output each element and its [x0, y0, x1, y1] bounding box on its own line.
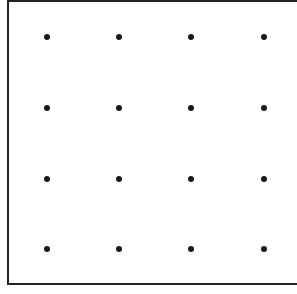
grid-dot — [116, 176, 122, 182]
grid-dot — [116, 105, 122, 111]
grid-dot — [116, 34, 122, 40]
grid-dot — [261, 105, 267, 111]
grid-dot — [44, 105, 50, 111]
grid-dot — [188, 105, 194, 111]
grid-dot — [261, 34, 267, 40]
grid-dot — [44, 246, 50, 252]
grid-dot — [44, 176, 50, 182]
grid-dot — [188, 246, 194, 252]
grid-dot — [188, 34, 194, 40]
grid-dot — [261, 246, 267, 252]
grid-dot — [44, 34, 50, 40]
grid-dot — [116, 246, 122, 252]
grid-dot — [188, 176, 194, 182]
grid-dot — [261, 176, 267, 182]
dot-grid-frame — [7, 0, 297, 285]
